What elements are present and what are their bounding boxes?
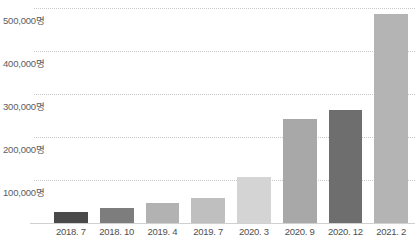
bar[interactable]: [374, 14, 408, 223]
bar[interactable]: [191, 198, 225, 223]
bar-slot: [323, 0, 369, 223]
bar-slot: [48, 0, 94, 223]
x-axis-tick-label: 2018. 7: [48, 226, 94, 237]
x-axis-tick-label: 2020. 3: [231, 226, 277, 237]
bar-slot: [231, 0, 277, 223]
x-axis-tick-label: 2020. 12: [323, 226, 369, 237]
bar-slot: [185, 0, 231, 223]
bar-slot: [277, 0, 323, 223]
x-axis-tick-label: 2020. 9: [277, 226, 323, 237]
bar-slot: [94, 0, 140, 223]
bar[interactable]: [100, 208, 134, 223]
bar[interactable]: [237, 177, 271, 223]
plot-area: [48, 0, 414, 223]
bar[interactable]: [146, 203, 180, 223]
bar[interactable]: [329, 110, 363, 223]
bar[interactable]: [283, 119, 317, 223]
bar-slot: [140, 0, 186, 223]
x-axis-tick-label: 2019. 4: [140, 226, 186, 237]
x-axis-tick-label: 2021. 2: [368, 226, 414, 237]
x-axis-line: [30, 223, 415, 224]
x-axis-tick-label: 2019. 7: [185, 226, 231, 237]
bar[interactable]: [54, 212, 88, 223]
bar-slot: [368, 0, 414, 223]
bar-chart: 500,000명 400,000명 300,000명 200,000명 100,…: [0, 0, 417, 249]
x-axis-tick-label: 2018. 10: [94, 226, 140, 237]
